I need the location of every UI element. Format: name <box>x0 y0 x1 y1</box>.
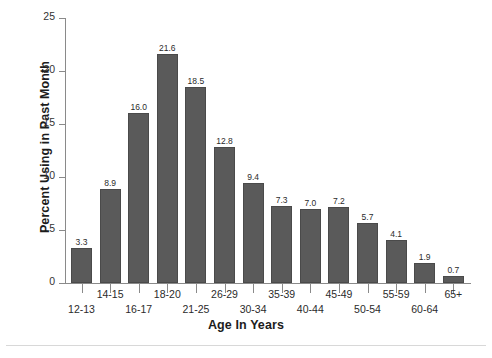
bar: 16.0 <box>128 113 149 283</box>
bar: 8.9 <box>100 189 121 283</box>
bar-value-label: 9.4 <box>247 172 259 182</box>
x-axis-label: 55-59 <box>383 288 410 300</box>
x-tick-mark <box>368 284 369 293</box>
bar: 7.3 <box>271 206 292 283</box>
y-tick-label: 15 <box>43 116 55 128</box>
y-axis-title: Percent Using in Past Month <box>38 17 52 277</box>
y-tick: 0 <box>59 283 65 284</box>
y-axis-line <box>65 18 66 284</box>
y-tick-mark <box>59 230 65 231</box>
bar: 4.1 <box>386 240 407 283</box>
x-tick-mark <box>253 284 254 293</box>
plot-area: 0510152025 3.38.916.021.618.512.89.47.37… <box>65 18 471 284</box>
y-tick-label: 0 <box>49 275 55 287</box>
y-tick-label: 25 <box>43 10 55 22</box>
bar-value-label: 7.2 <box>333 196 345 206</box>
x-axis-title: Age In Years <box>0 318 492 332</box>
x-axis-label: 65+ <box>444 288 462 300</box>
x-tick-mark <box>82 284 83 293</box>
y-tick: 20 <box>59 71 65 72</box>
bar: 5.7 <box>357 223 378 283</box>
bar-value-label: 7.0 <box>304 198 316 208</box>
y-tick: 25 <box>59 18 65 19</box>
x-axis-label: 35-39 <box>268 288 295 300</box>
bar: 0.7 <box>443 276 464 283</box>
bar-value-label: 1.9 <box>419 252 431 262</box>
bar-value-label: 3.3 <box>76 237 88 247</box>
y-tick-label: 10 <box>43 169 55 181</box>
y-tick-label: 5 <box>49 222 55 234</box>
bar: 7.0 <box>300 209 321 283</box>
y-tick: 10 <box>59 177 65 178</box>
x-axis-label: 60-64 <box>411 303 438 315</box>
y-tick-label: 20 <box>43 63 55 75</box>
bottom-divider <box>6 345 486 346</box>
x-axis-label: 14-15 <box>97 288 124 300</box>
y-tick-mark <box>59 18 65 19</box>
bar-value-label: 18.5 <box>188 76 205 86</box>
y-tick-mark <box>59 71 65 72</box>
x-axis-label: 16-17 <box>125 303 152 315</box>
x-axis-label: 40-44 <box>297 303 324 315</box>
bar-value-label: 12.8 <box>216 136 233 146</box>
bar-chart: Percent Using in Past Month 0510152025 3… <box>0 0 492 358</box>
bar: 3.3 <box>71 248 92 283</box>
bar: 1.9 <box>414 263 435 283</box>
y-tick-mark <box>59 283 65 284</box>
bar: 12.8 <box>214 147 235 283</box>
bar-value-label: 5.7 <box>362 212 374 222</box>
y-tick-mark <box>59 177 65 178</box>
bar-value-label: 16.0 <box>130 102 147 112</box>
x-tick-mark <box>310 284 311 293</box>
bar: 9.4 <box>243 183 264 283</box>
bar-value-label: 4.1 <box>390 229 402 239</box>
x-axis-line <box>65 283 471 284</box>
x-axis-label: 45-49 <box>325 288 352 300</box>
bar-value-label: 8.9 <box>104 178 116 188</box>
x-axis-label: 50-54 <box>354 303 381 315</box>
bar-value-label: 0.7 <box>447 265 459 275</box>
bar-value-label: 7.3 <box>276 195 288 205</box>
x-axis-label: 21-25 <box>182 303 209 315</box>
y-tick-mark <box>59 124 65 125</box>
bar-value-label: 21.6 <box>159 43 176 53</box>
bar: 7.2 <box>328 207 349 283</box>
x-tick-mark <box>139 284 140 293</box>
x-axis-label: 30-34 <box>240 303 267 315</box>
y-tick: 15 <box>59 124 65 125</box>
x-tick-mark <box>196 284 197 293</box>
y-tick: 5 <box>59 230 65 231</box>
bar: 21.6 <box>157 54 178 283</box>
x-tick-mark <box>425 284 426 293</box>
x-axis-label: 26-29 <box>211 288 238 300</box>
x-axis-label: 18-20 <box>154 288 181 300</box>
bar: 18.5 <box>185 87 206 283</box>
x-axis-label: 12-13 <box>68 303 95 315</box>
